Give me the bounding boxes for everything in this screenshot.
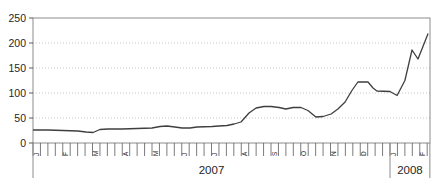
y-axis-label: 150 — [8, 62, 26, 74]
y-axis-label: 200 — [8, 37, 26, 49]
month-label: F — [62, 152, 69, 156]
y-axis-label: 0 — [20, 137, 26, 149]
month-label: D — [360, 151, 367, 156]
month-label: J — [211, 153, 218, 156]
month-label: M — [152, 151, 159, 156]
line-chart: 050100150200250JFMAMJJASONDJF20072008 — [0, 0, 447, 191]
chart-canvas: 050100150200250JFMAMJJASONDJF20072008 — [0, 0, 447, 191]
month-label: O — [300, 151, 307, 156]
year-label: 2007 — [199, 164, 225, 176]
month-label: J — [181, 153, 188, 156]
month-label: M — [92, 151, 99, 156]
chart-screenshot: 050100150200250JFMAMJJASONDJF20072008 — [0, 0, 447, 191]
month-label: F — [419, 152, 426, 156]
data-line — [33, 34, 428, 133]
month-label: J — [390, 153, 397, 156]
y-axis-label: 250 — [8, 12, 26, 24]
month-label: J — [33, 153, 40, 156]
year-label: 2008 — [397, 164, 423, 176]
month-label: S — [271, 151, 278, 156]
month-label: A — [122, 151, 129, 156]
month-label: N — [330, 151, 337, 156]
y-axis-label: 50 — [14, 112, 26, 124]
y-axis-label: 100 — [8, 87, 26, 99]
month-label: A — [241, 151, 248, 156]
